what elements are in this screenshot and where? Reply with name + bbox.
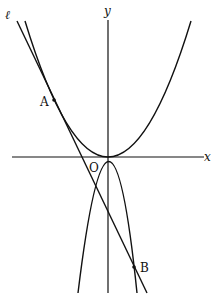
point-a-label: A [39, 95, 49, 109]
line-l-label: ℓ [5, 8, 10, 22]
origin-label: O [89, 161, 99, 175]
point-b-marker [132, 265, 136, 269]
point-b-label: B [140, 261, 149, 275]
point-a-marker [52, 98, 56, 102]
x-axis-label: x [204, 150, 211, 164]
y-axis-label: y [103, 4, 111, 18]
diagram-canvas: ℓ y x O A B [0, 0, 211, 296]
